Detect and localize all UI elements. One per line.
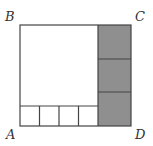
- label-d: D: [134, 127, 146, 142]
- shaded-column: [98, 25, 131, 126]
- geometry-diagram: B C A D: [0, 0, 153, 146]
- label-b: B: [4, 9, 15, 24]
- label-c: C: [135, 9, 145, 24]
- label-a: A: [5, 127, 15, 142]
